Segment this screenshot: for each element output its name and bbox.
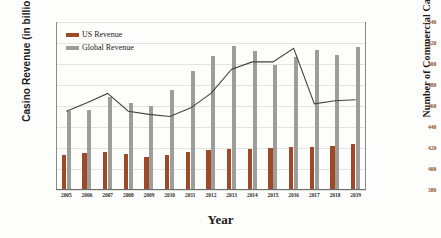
x-tick-label: 2015 — [263, 192, 284, 198]
x-tick-label: 2017 — [304, 192, 325, 198]
gridline — [56, 190, 366, 191]
x-tick-label: 2019 — [345, 192, 366, 198]
x-tick-label: 2006 — [77, 192, 98, 198]
x-tick-label: 2007 — [97, 192, 118, 198]
y-tick-label-right: 500 — [428, 61, 441, 67]
x-tick-label: 2009 — [139, 192, 160, 198]
legend-label: US Revenue — [82, 30, 122, 39]
y-tick-label-right: 480 — [428, 82, 441, 88]
legend-swatch-icon — [66, 46, 79, 50]
y-tick-label-right: 380 — [428, 187, 441, 193]
legend-item: US Revenue — [66, 30, 134, 39]
y-tick-label-right: 400 — [428, 166, 441, 172]
x-tick-label: 2016 — [283, 192, 304, 198]
y-tick-label-right: 420 — [428, 145, 441, 151]
x-tick-label: 2014 — [242, 192, 263, 198]
y-tick-label-right: 540 — [428, 19, 441, 25]
x-tick-label: 2010 — [159, 192, 180, 198]
x-tick-label: 2008 — [118, 192, 139, 198]
chart-legend: US RevenueGlobal Revenue — [66, 30, 134, 56]
legend-swatch-icon — [66, 33, 79, 37]
y-tick-label-right: 520 — [428, 40, 441, 46]
legend-label: Global Revenue — [82, 43, 134, 52]
x-tick-label: 2013 — [221, 192, 242, 198]
x-tick-label: 2012 — [201, 192, 222, 198]
y-tick-label-right: 440 — [428, 124, 441, 130]
x-axis-title: Year — [0, 212, 441, 228]
x-tick-label: 2018 — [325, 192, 346, 198]
casino-count-line — [66, 48, 355, 116]
y-axis-title-left: Casino Revenue (in billions) — [21, 0, 32, 124]
x-tick-label: 2005 — [56, 192, 77, 198]
x-tick-label: 2011 — [180, 192, 201, 198]
casino-revenue-chart: Casino Revenue (in billions) Number of C… — [0, 0, 441, 238]
legend-item: Global Revenue — [66, 43, 134, 52]
y-tick-label-right: 460 — [428, 103, 441, 109]
